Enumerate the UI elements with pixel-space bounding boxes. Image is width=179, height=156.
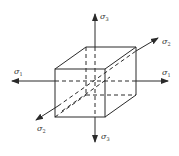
label-sigma2-upper: σ2: [162, 38, 171, 47]
label-sigma3-bottom: σ3: [101, 133, 110, 142]
cube-front-face: [55, 69, 105, 117]
stress-cube-diagram: [0, 0, 179, 156]
label-sigma1-left: σ1: [14, 68, 23, 77]
cube-edge-top-right: [105, 47, 136, 69]
label-sigma1-right: σ1: [162, 69, 171, 78]
label-sigma3-top: σ3: [100, 13, 109, 22]
axis-sigma2-upper: [136, 38, 158, 51]
stress-axes: [12, 14, 168, 142]
cube-edge-bottom-right: [105, 95, 136, 117]
axis-sigma2-hidden: [58, 51, 136, 106]
label-sigma2-lower: σ2: [37, 125, 46, 134]
cube-edge-top-left: [55, 47, 86, 69]
